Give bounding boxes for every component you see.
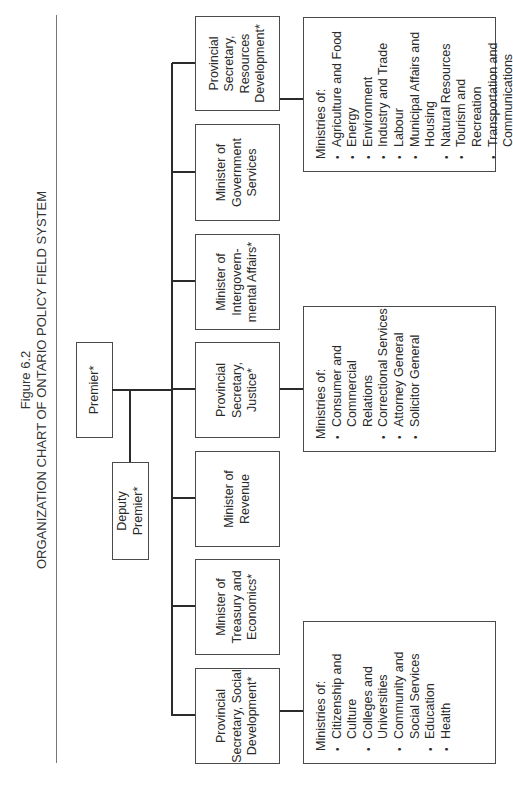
- ministries-connector-resources: [280, 98, 303, 100]
- ministry-item: Education: [423, 622, 439, 751]
- ministry-item: Labour: [392, 18, 408, 159]
- ministry-item: Transportation and Communications: [486, 18, 513, 159]
- ministries-list: Agriculture and Food Energy Environment …: [330, 18, 513, 159]
- ministry-item: Health: [439, 622, 455, 751]
- ministries-list: Citizenship and Culture Colleges and Uni…: [330, 622, 455, 751]
- branch-treasury: [172, 605, 195, 607]
- minister-label: Secretary,: [230, 362, 246, 418]
- ministry-item: Natural Resources: [439, 18, 455, 159]
- minister-box-treasury: Minister of Treasury and Economics*: [195, 559, 280, 655]
- branch-intergov: [172, 280, 195, 282]
- org-chart-page: Figure 6.2 ORGANIZATION CHART OF ONTARIO…: [0, 0, 513, 786]
- minister-label: Services: [245, 138, 261, 207]
- ministries-box-justice: Ministries of: Consumer and Commercial R…: [303, 306, 496, 452]
- minister-label: Economics*: [245, 570, 261, 643]
- minister-box-revenue: Minister of Revenue: [195, 451, 280, 547]
- ministries-box-resources: Ministries of: Agriculture and Food Ener…: [303, 17, 496, 172]
- figure-caption: Figure 6.2 ORGANIZATION CHART OF ONTARIO…: [18, 180, 50, 580]
- minister-label: mental Affairs*: [245, 242, 261, 322]
- deputy-premier-line-1: Deputy: [115, 487, 131, 536]
- deputy-connector: [129, 390, 131, 462]
- ministries-connector-social: [280, 710, 303, 712]
- branch-ps-justice: [172, 388, 195, 390]
- deputy-premier-line-2: Premier*: [131, 487, 147, 536]
- minister-label: Secretary,: [222, 24, 238, 103]
- ministry-item: Municipal Affairs and Housing: [408, 18, 439, 159]
- figure-number: Figure 6.2: [18, 180, 34, 580]
- ministries-connector-justice: [280, 388, 303, 390]
- ministry-item: Consumer and Commercial Relations: [330, 307, 377, 439]
- minister-box-ps-resources: Provincial Secretary, Resources Developm…: [195, 16, 280, 111]
- ministries-box-social: Ministries of: Citizenship and Culture C…: [303, 621, 496, 764]
- ministry-item: Energy: [345, 18, 361, 159]
- minister-label: Treasury and: [230, 570, 246, 643]
- branch-ps-social: [172, 714, 195, 716]
- ministry-item: Correctional Services: [376, 307, 392, 439]
- ministries-heading: Ministries of:: [314, 307, 330, 439]
- branch-ps-resources: [172, 62, 195, 64]
- ministry-item: Solicitor General: [408, 307, 424, 439]
- minister-box-ps-justice: Provincial Secretary, Justice*: [195, 342, 280, 438]
- minister-label: Justice*: [245, 362, 261, 418]
- minister-label: Government: [230, 138, 246, 207]
- minister-label: Minister of: [214, 242, 230, 322]
- branch-revenue: [172, 497, 195, 499]
- minister-box-gov-services: Minister of Government Services: [195, 124, 280, 221]
- ministry-item: Industry and Trade: [376, 18, 392, 159]
- title-divider: [56, 15, 57, 763]
- ministry-item: Colleges and Universities: [361, 622, 392, 751]
- minister-label: Provincial: [214, 362, 230, 418]
- ministry-item: Tourism and Recreation: [454, 18, 485, 159]
- minister-label: Minister of: [214, 138, 230, 207]
- minister-label: Development*: [253, 24, 269, 103]
- ministry-item: Environment: [361, 18, 377, 159]
- premier-box: Premier*: [76, 342, 113, 438]
- figure-title: ORGANIZATION CHART OF ONTARIO POLICY FIE…: [34, 180, 50, 580]
- minister-label: Minister of: [222, 470, 238, 528]
- ministry-item: Community and Social Services: [392, 622, 423, 751]
- ministry-item: Citizenship and Culture: [330, 622, 361, 751]
- premier-label: Premier*: [87, 366, 103, 415]
- minister-label: Minister of: [214, 570, 230, 643]
- minister-label: Provincial: [207, 24, 223, 103]
- deputy-premier-box: Deputy Premier*: [112, 462, 149, 560]
- minister-label: Secretary, Social: [230, 669, 246, 763]
- minister-label: Development*: [245, 669, 261, 763]
- branch-gov-services: [172, 171, 195, 173]
- minister-label: Provincial: [214, 669, 230, 763]
- ministry-item: Attorney General: [392, 307, 408, 439]
- premier-connector: [112, 389, 172, 391]
- ministries-heading: Ministries of:: [314, 18, 330, 159]
- minister-label: Revenue: [238, 470, 254, 528]
- minister-label: Intergovern-: [230, 242, 246, 322]
- ministries-heading: Ministries of:: [314, 622, 330, 751]
- ministries-list: Consumer and Commercial Relations Correc…: [330, 307, 424, 439]
- ministry-item: Agriculture and Food: [330, 18, 346, 159]
- minister-box-ps-social: Provincial Secretary, Social Development…: [195, 668, 280, 764]
- minister-box-intergov: Minister of Intergovern- mental Affairs*: [195, 234, 280, 330]
- minister-label: Resources: [238, 24, 254, 103]
